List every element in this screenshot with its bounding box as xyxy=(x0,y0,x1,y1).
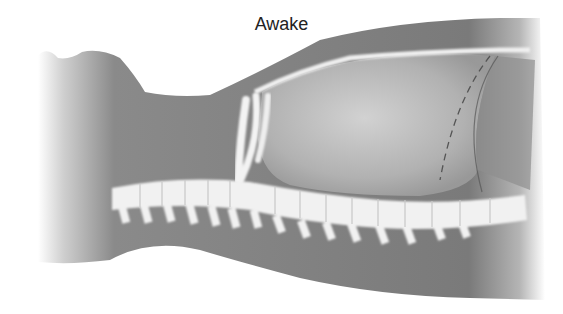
anatomy-illustration xyxy=(0,0,563,314)
